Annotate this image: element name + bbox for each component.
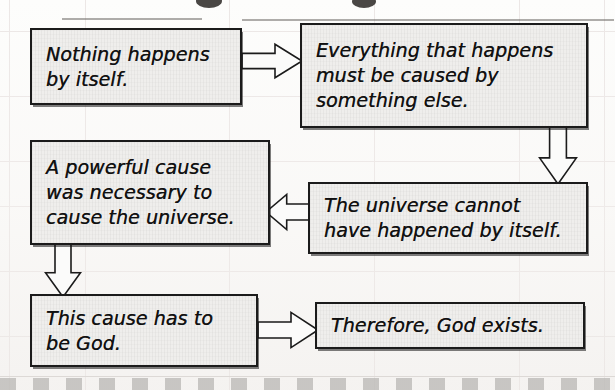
flow-node-powerful-cause-necessary: A powerful cause was necessary to cause … [30, 140, 270, 245]
arrow-n3-to-n4-icon [266, 192, 312, 232]
scan-edge-rule [62, 18, 202, 20]
grid-line-vertical [604, 0, 605, 390]
arrow-n1-to-n2-icon [242, 42, 302, 80]
flow-node-text: Therefore, God exists. [331, 313, 544, 338]
bottom-hairline [0, 376, 615, 377]
diagram-canvas: Nothing happens by itself. Everything th… [0, 0, 615, 390]
cut-off-title-glyph [196, 0, 222, 8]
flow-node-text: A powerful cause was necessary to cause … [46, 155, 235, 230]
flow-node-this-cause-has-to-be-god: This cause has to be God. [30, 294, 258, 367]
grid-line-horizontal [0, 271, 615, 272]
flow-node-text: This cause has to be God. [46, 306, 213, 356]
arrow-n4-to-n5-icon [44, 243, 82, 297]
arrow-n2-to-n3-icon [538, 126, 578, 184]
arrow-n5-to-n6-icon [258, 310, 318, 350]
scan-edge-rule [242, 19, 614, 21]
flow-node-text: Everything that happens must be caused b… [316, 38, 553, 113]
flow-node-nothing-happens-by-itself: Nothing happens by itself. [30, 28, 242, 105]
flow-node-universe-cannot-have-happened-by-itself: The universe cannot have happened by its… [308, 182, 588, 254]
bottom-scan-strip [0, 378, 615, 390]
grid-line-vertical [9, 0, 10, 390]
flow-node-therefore-god-exists: Therefore, God exists. [315, 302, 585, 349]
cut-off-title-glyph [352, 0, 376, 8]
flow-node-text: Nothing happens by itself. [46, 42, 210, 92]
flow-node-everything-must-be-caused: Everything that happens must be caused b… [300, 23, 588, 128]
flow-node-text: The universe cannot have happened by its… [324, 193, 562, 243]
